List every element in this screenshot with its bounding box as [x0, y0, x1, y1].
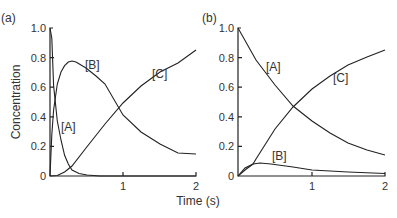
- panel-a-curves: [50, 28, 196, 176]
- svg-text:0.4: 0.4: [31, 111, 46, 123]
- panel-a-axes: [50, 28, 196, 176]
- panel-b-label-B: [B]: [272, 149, 287, 163]
- panel-b-curve-C: [238, 50, 385, 176]
- panel-a-label-A: [A]: [61, 120, 76, 134]
- x-axis-label: Time (s): [176, 194, 220, 208]
- svg-text:0: 0: [40, 170, 46, 182]
- panel-a-label: (a): [1, 11, 16, 25]
- svg-text:1: 1: [120, 180, 126, 192]
- svg-text:0.6: 0.6: [219, 81, 234, 93]
- panel-b-label: (b): [202, 11, 217, 25]
- panel-b-curves: [238, 28, 385, 176]
- panel-a-curve-B: [50, 61, 196, 176]
- panel-a-yticks: 1.0 0.8 0.6 0.4 0.2 0: [31, 22, 46, 182]
- svg-text:1.0: 1.0: [31, 22, 46, 34]
- svg-text:0.8: 0.8: [31, 52, 46, 64]
- svg-text:1.0: 1.0: [219, 22, 234, 34]
- svg-text:0: 0: [228, 170, 234, 182]
- panel-b-yticks: 1.0 0.8 0.6 0.4 0.2 0: [219, 22, 234, 182]
- panel-b-curve-A: [238, 28, 385, 155]
- svg-text:2: 2: [193, 180, 199, 192]
- panel-a-label-B: [B]: [85, 58, 100, 72]
- panel-a-label-C: [C]: [152, 67, 167, 81]
- panel-b-label-A: [A]: [266, 60, 281, 74]
- panel-b-xticks: 1 2: [309, 180, 388, 192]
- svg-text:0.4: 0.4: [219, 111, 234, 123]
- svg-text:0.6: 0.6: [31, 81, 46, 93]
- kinetics-figure: (a) 1.0 0.8 0.6 0.4 0.2 0 1 2 Concentrat…: [0, 0, 397, 218]
- panel-b-axes: [238, 28, 385, 176]
- y-axis-label: Concentration: [9, 65, 23, 140]
- panel-b-label-C: [C]: [333, 71, 348, 85]
- panel-a-curve-A: [50, 28, 196, 176]
- svg-text:0.2: 0.2: [219, 140, 234, 152]
- svg-text:0.2: 0.2: [31, 140, 46, 152]
- svg-text:0.8: 0.8: [219, 52, 234, 64]
- panel-a-curve-C: [50, 50, 196, 176]
- svg-text:1: 1: [309, 180, 315, 192]
- panel-a-xticks: 1 2: [120, 180, 199, 192]
- svg-text:2: 2: [382, 180, 388, 192]
